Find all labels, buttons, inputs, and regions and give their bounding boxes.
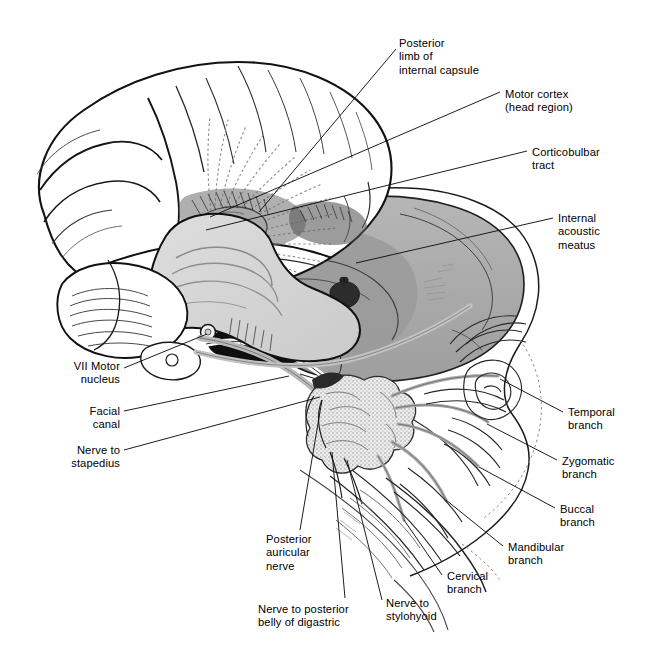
label-mandibular-branch: Mandibular branch [508,541,564,568]
label-nerve-to-posterior-belly-of-digastric: Nerve to posterior belly of digastric [258,603,349,630]
label-nerve-to-stylohyoid: Nerve to stylohyoid [386,597,437,624]
label-temporal-branch: Temporal branch [568,406,615,433]
label-posterior-auricular-nerve: Posterior auricular nerve [266,533,312,573]
label-zygomatic-branch: Zygomatic branch [562,455,615,482]
label-posterior-limb-of-internal-capsule: Posterior limb of internal capsule [399,37,479,77]
label-motor-cortex-head-region: Motor cortex (head region) [505,88,573,115]
label-facial-canal: Facial canal [32,405,120,432]
label-vii-motor-nucleus: VII Motor nucleus [32,360,120,387]
label-corticobulbar-tract: Corticobulbar tract [532,146,600,173]
label-internal-acoustic-meatus: Internal acoustic meatus [558,212,600,252]
label-buccal-branch: Buccal branch [560,503,595,530]
cerebral-hemisphere [36,62,392,380]
facial-nerve-diagram: Posterior limb of internal capsule Motor… [0,0,646,662]
label-nerve-to-stapedius: Nerve to stapedius [32,444,120,471]
label-cervical-branch: Cervical branch [447,570,488,597]
